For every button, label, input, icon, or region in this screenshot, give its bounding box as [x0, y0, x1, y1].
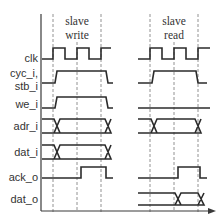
signal-label-ack: ack_o — [9, 171, 38, 183]
phase-write-label: slave write — [65, 15, 89, 41]
clock-edge-guides — [53, 14, 198, 212]
svg-text:slave: slave — [65, 15, 89, 27]
time-axis-arrow-icon — [208, 208, 216, 214]
clk-waveform-write — [42, 48, 111, 59]
signal-label-stb: stb_i — [15, 80, 38, 92]
phase-read-label: slave read — [162, 15, 186, 41]
timing-diagram: slave write slave read clk cyc_i, stb_i … — [0, 0, 223, 224]
signal-label-dat-o: dat_o — [10, 193, 38, 205]
signal-label-we: we_i — [14, 98, 38, 110]
dat-o-bus-read — [138, 193, 204, 205]
ack-waveform-read — [138, 167, 207, 178]
cyc-stb-waveform-read — [138, 71, 207, 83]
signal-label-adr: adr_i — [14, 120, 38, 132]
clk-waveform-read — [138, 48, 210, 59]
svg-text:write: write — [65, 29, 89, 41]
adr-bus-read — [138, 119, 201, 133]
svg-text:slave: slave — [162, 15, 186, 27]
svg-text:read: read — [164, 29, 184, 41]
signal-label-clk: clk — [25, 52, 39, 64]
signal-label-cyc: cyc_i, — [10, 67, 38, 79]
signal-label-dat-i: dat_i — [14, 146, 38, 158]
